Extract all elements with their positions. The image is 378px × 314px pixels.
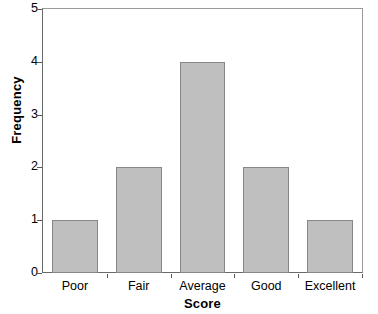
x-axis-tick-labels: PoorFairAverageGoodExcellent bbox=[43, 278, 362, 296]
x-axis-tick-label: Fair bbox=[107, 278, 171, 294]
y-axis-tick-label: 4 bbox=[24, 55, 38, 68]
bar bbox=[243, 167, 289, 273]
y-axis-tick-label: 1 bbox=[24, 213, 38, 226]
bar-chart-figure: Frequency 012345 PoorFairAverageGoodExce… bbox=[0, 0, 378, 314]
bar bbox=[52, 220, 98, 273]
x-axis-tick-label: Average bbox=[171, 278, 235, 294]
x-axis-tick-label: Poor bbox=[43, 278, 107, 294]
x-axis-tick-mark bbox=[362, 274, 363, 278]
bars-container bbox=[43, 9, 362, 273]
y-axis-tick-labels: 012345 bbox=[22, 0, 38, 314]
bar bbox=[180, 62, 226, 273]
y-axis-tick-label: 3 bbox=[24, 108, 38, 121]
y-axis-tick-label: 5 bbox=[24, 2, 38, 15]
y-axis-tick-label: 2 bbox=[24, 160, 38, 173]
bar bbox=[307, 220, 353, 273]
x-axis-tick-label: Excellent bbox=[298, 278, 362, 294]
x-axis-tick-label: Good bbox=[234, 278, 298, 294]
x-axis-title: Score bbox=[43, 296, 362, 311]
bar bbox=[116, 167, 162, 273]
